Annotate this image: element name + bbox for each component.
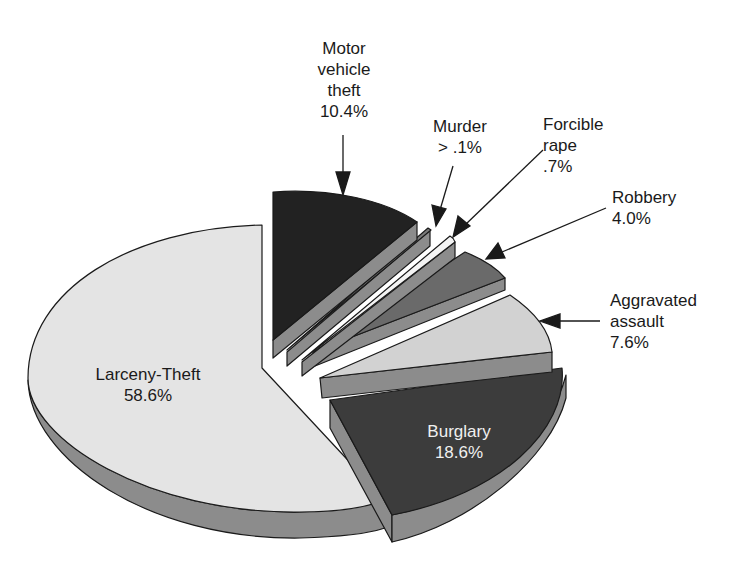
- label-larceny-theft: Larceny-Theft 58.6%: [78, 364, 218, 406]
- arrow-robbery: [486, 208, 606, 259]
- label-robbery: Robbery 4.0%: [612, 187, 676, 229]
- arrow-assault: [540, 314, 600, 328]
- label-forcible-rape: Forcible rape .7%: [543, 114, 603, 177]
- label-murder: Murder > .1%: [420, 116, 500, 158]
- arrow-rape: [453, 150, 543, 237]
- label-motor-vehicle-theft: Motor vehicle theft 10.4%: [304, 38, 384, 122]
- label-burglary: Burglary 18.6%: [414, 421, 504, 463]
- arrow-murder: [432, 166, 453, 226]
- arrow-motor-vehicle: [336, 135, 350, 195]
- label-aggravated-assault: Aggravated assault 7.6%: [610, 290, 697, 353]
